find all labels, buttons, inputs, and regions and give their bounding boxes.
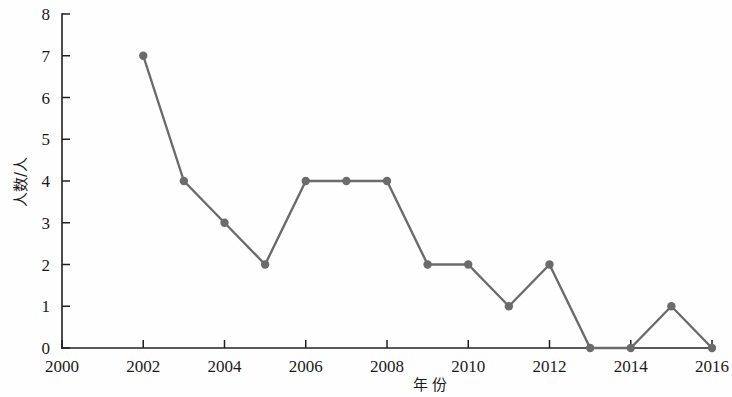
y-tick-label-7: 7 [42, 47, 51, 66]
y-tick-label-5: 5 [42, 130, 51, 149]
y-tick-label-3: 3 [42, 214, 51, 233]
y-tick-label-8: 8 [42, 5, 51, 24]
data-point-2011-1 [505, 302, 513, 310]
y-axis-tick-labels: 012345678 [42, 5, 51, 358]
chart-page: 012345678 200020022004200620082010201220… [0, 0, 732, 397]
data-point-2003-4 [180, 177, 188, 185]
y-axis-title: 人数/人 [12, 157, 30, 207]
data-point-2005-2 [261, 260, 269, 268]
x-axis-title: 年 份 [413, 376, 448, 394]
x-tick-label-2012: 2012 [533, 357, 567, 376]
data-point-2006-4 [302, 177, 310, 185]
x-tick-label-2004: 2004 [208, 357, 243, 376]
x-tick-label-2008: 2008 [370, 357, 404, 376]
data-point-2012-2 [545, 260, 553, 268]
data-point-2015-1 [667, 302, 675, 310]
y-tick-label-0: 0 [42, 339, 51, 358]
data-point-2002-7 [139, 52, 147, 60]
y-tick-label-6: 6 [42, 89, 51, 108]
x-axis-tick-labels: 200020022004200620082010201220142016 [45, 357, 729, 376]
x-tick-label-2006: 2006 [289, 357, 323, 376]
data-point-2016-0 [708, 344, 716, 352]
data-point-2013-0 [586, 344, 594, 352]
x-tick-label-2002: 2002 [126, 357, 160, 376]
data-point-2009-2 [423, 260, 431, 268]
x-tick-label-2010: 2010 [451, 357, 485, 376]
data-point-2014-0 [627, 344, 635, 352]
x-tick-label-2014: 2014 [614, 357, 649, 376]
data-point-2007-4 [342, 177, 350, 185]
data-point-2008-4 [383, 177, 391, 185]
data-point-2010-2 [464, 260, 472, 268]
y-tick-label-2: 2 [42, 256, 51, 275]
x-tick-label-2016: 2016 [695, 357, 729, 376]
y-tick-label-1: 1 [42, 297, 51, 316]
line-chart: 012345678 200020022004200620082010201220… [0, 0, 732, 397]
chart-background [0, 0, 732, 397]
data-point-2004-3 [220, 219, 228, 227]
y-tick-label-4: 4 [42, 172, 51, 191]
x-tick-label-2000: 2000 [45, 357, 79, 376]
